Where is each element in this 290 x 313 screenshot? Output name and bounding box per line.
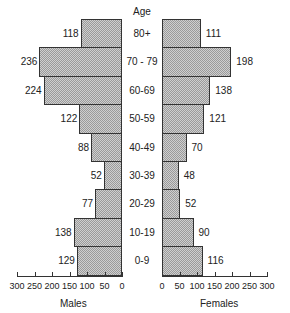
male-tick-label: 0 [110,282,134,291]
female-axis [162,276,268,277]
female-tick [215,272,216,276]
male-tick [105,272,106,276]
female-bar [162,161,179,190]
male-bar [104,161,122,190]
female-bar [162,218,194,247]
male-tick [87,272,88,276]
female-bar [162,47,231,76]
female-tick [162,272,163,276]
male-bar [77,246,122,275]
female-value: 48 [184,171,195,181]
female-bar [162,133,187,162]
males-axis-title: Males [60,298,87,309]
female-bar [162,76,210,105]
male-bar [79,104,122,133]
female-tick [267,272,268,276]
female-value: 198 [236,57,253,67]
age-label: 80+ [122,29,162,39]
female-tick [250,272,251,276]
female-bar [162,19,201,48]
female-value: 90 [199,228,210,238]
male-bar [44,76,122,105]
male-axis [17,276,123,277]
male-value: 88 [69,143,89,153]
age-label: 10-19 [122,228,162,238]
male-tick [17,272,18,276]
female-tick [180,272,181,276]
male-value: 122 [57,114,77,124]
female-value: 121 [209,114,226,124]
female-value: 52 [185,199,196,209]
male-value: 77 [73,199,93,209]
male-tick [35,272,36,276]
female-bar [162,189,180,218]
age-label: 40-49 [122,143,162,153]
age-label: 70 - 79 [122,57,162,67]
females-axis-title: Females [200,298,238,309]
male-bar [81,19,122,48]
age-label: 60-69 [122,86,162,96]
age-label: 0-9 [122,256,162,266]
female-value: 70 [192,143,203,153]
male-bar [95,189,122,218]
male-value: 129 [55,256,75,266]
female-tick [232,272,233,276]
male-value: 224 [22,86,42,96]
age-label: 50-59 [122,114,162,124]
female-bar [162,104,204,133]
male-value: 118 [59,29,79,39]
female-tick-label: 300 [255,282,279,291]
male-tick [52,272,53,276]
male-bar [39,47,122,76]
male-tick [122,272,123,276]
male-bar [91,133,122,162]
male-value: 138 [52,228,72,238]
male-value: 236 [17,57,37,67]
age-label: 30-39 [122,171,162,181]
female-tick [197,272,198,276]
female-value: 111 [206,29,221,39]
female-value: 116 [208,256,224,266]
male-value: 52 [82,171,102,181]
female-value: 138 [215,86,232,96]
age-label: 20-29 [122,199,162,209]
male-bar [74,218,122,247]
age-header: Age [122,7,162,17]
male-tick [70,272,71,276]
